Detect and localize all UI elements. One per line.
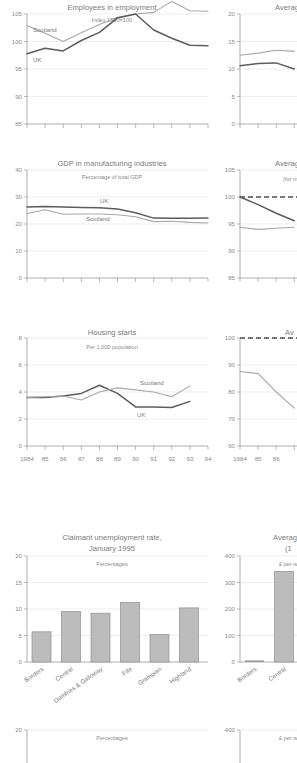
bars — [245, 571, 297, 662]
series-label-scotland: Scotland — [140, 379, 164, 386]
svg-text:90: 90 — [15, 93, 22, 100]
x-axis-labels: 1984 85 86 — [233, 455, 280, 462]
svg-text:1984: 1984 — [20, 455, 34, 462]
chart-subtitle: Percentage of total GDP — [82, 174, 143, 180]
series-label-scotland: Scotland — [33, 26, 57, 33]
chart-title-line1: Claimant unemployment rate, — [62, 533, 161, 542]
svg-text:Highland: Highland — [168, 665, 192, 685]
chart-subtitle: Percentages — [96, 735, 128, 741]
bar-highland — [180, 608, 199, 662]
chart-subtitle: £ per we — [279, 561, 297, 567]
y-axis-labels: 20 15 10 5 0 — [15, 552, 22, 665]
svg-text:100: 100 — [225, 334, 236, 341]
svg-text:86: 86 — [60, 455, 67, 462]
svg-text:400: 400 — [225, 552, 236, 559]
svg-text:Central: Central — [54, 665, 74, 682]
x-axis-labels: 1984 85 86 87 88 89 90 91 92 93 94 — [20, 455, 212, 462]
y-axis-labels: 8 6 4 2 0 — [19, 334, 23, 449]
chart-title: Average gr — [275, 159, 297, 168]
series-line-light — [240, 372, 294, 409]
svg-text:Grampian: Grampian — [136, 665, 163, 687]
svg-text:85: 85 — [42, 455, 49, 462]
svg-text:105: 105 — [225, 166, 236, 173]
svg-text:10: 10 — [15, 605, 22, 612]
series-line-light — [240, 227, 294, 229]
svg-text:10: 10 — [228, 65, 235, 72]
svg-text:15: 15 — [228, 38, 235, 45]
y-tick-top: 20 — [15, 726, 22, 733]
svg-text:0: 0 — [19, 442, 23, 449]
chart-title-line1: Averag — [273, 533, 297, 542]
series-label-uk: UK — [33, 56, 41, 63]
svg-text:90: 90 — [228, 247, 235, 254]
chart-title: Av — [285, 328, 294, 337]
chart-subtitle: Per 1,000 population — [86, 344, 138, 350]
y-axis-labels: 20 15 10 5 0 — [228, 10, 235, 127]
svg-text:20: 20 — [15, 220, 22, 227]
chart-title: GDP in manufacturing industries — [57, 159, 166, 168]
x-ticks — [27, 278, 208, 282]
svg-text:15: 15 — [15, 579, 22, 586]
series-line-scotland — [27, 386, 190, 400]
chart-sheet: Employees in employment Index 1990=100 1… — [0, 0, 297, 763]
svg-text:20: 20 — [228, 10, 235, 17]
bar-dumfries-galloway — [91, 613, 110, 662]
svg-text:105: 105 — [12, 10, 23, 17]
chart-title-line2: January 1995 — [89, 544, 135, 553]
axis-spines — [237, 338, 297, 450]
svg-text:0: 0 — [232, 120, 236, 127]
gridlines — [240, 14, 297, 97]
series-label-uk: UK — [100, 197, 108, 204]
chart-subtitle: (for ma — [283, 176, 297, 182]
chart-average-clipped-line: Av 100 90 80 70 60 — [213, 305, 297, 480]
chart-employees-in-employment: Employees in employment Index 1990=100 1… — [0, 0, 220, 152]
bar-central — [275, 571, 294, 662]
svg-text:40: 40 — [15, 166, 22, 173]
svg-text:90: 90 — [132, 455, 139, 462]
category-labels: Borders Central Du — [236, 665, 297, 683]
svg-text:30: 30 — [15, 193, 22, 200]
chart-subtitle: £ per we — [279, 735, 297, 741]
y-axis-labels: 40 30 20 10 0 — [15, 166, 22, 281]
y-axis-labels: 105 100 95 90 85 — [12, 10, 23, 127]
gridlines — [27, 338, 208, 419]
axis-spines — [237, 14, 297, 128]
svg-text:70: 70 — [228, 415, 235, 422]
svg-text:90: 90 — [228, 361, 235, 368]
chart-title: Average e — [275, 3, 297, 12]
chart-average-gross-weekly-clipped: Average gr (for ma 105 100 95 90 85 — [213, 155, 297, 305]
series-label-uk: UK — [137, 411, 145, 418]
gridlines — [27, 170, 208, 251]
chart-housing-starts: Housing starts Per 1,000 population 8 6 … — [0, 305, 220, 480]
svg-text:95: 95 — [15, 65, 22, 72]
bars — [32, 603, 199, 662]
svg-text:4: 4 — [19, 388, 23, 395]
svg-text:95: 95 — [228, 220, 235, 227]
chart-subtitle: Percentages — [96, 561, 128, 567]
svg-text:100: 100 — [225, 193, 236, 200]
chart-claimant-unemployment-rate: Claimant unemployment rate, January 1995… — [0, 530, 220, 715]
series-line-dark — [240, 63, 294, 69]
svg-text:Borders: Borders — [23, 665, 45, 683]
svg-text:92: 92 — [168, 455, 175, 462]
svg-text:5: 5 — [232, 93, 236, 100]
svg-text:20: 20 — [15, 552, 22, 559]
svg-text:86: 86 — [273, 455, 280, 462]
x-ticks — [27, 124, 208, 128]
bar-grampian — [150, 634, 169, 662]
series-line-dark — [240, 197, 294, 221]
y-axis-labels: 400 300 200 100 0 — [225, 552, 236, 665]
svg-text:8: 8 — [19, 334, 23, 341]
chart-average-earnings-clipped: Average e 20 15 10 5 0 — [213, 0, 297, 152]
bar-borders — [32, 632, 51, 662]
svg-text:60: 60 — [228, 442, 235, 449]
svg-text:Fife: Fife — [121, 665, 134, 677]
series-line-scotland — [27, 210, 208, 223]
bar-fife — [121, 603, 140, 662]
gridlines — [240, 338, 297, 419]
svg-text:Borders: Borders — [236, 665, 258, 683]
svg-text:2: 2 — [19, 415, 23, 422]
svg-text:80: 80 — [228, 388, 235, 395]
axis-spines — [237, 170, 297, 282]
y-axis-labels: 100 90 80 70 60 — [225, 334, 236, 449]
